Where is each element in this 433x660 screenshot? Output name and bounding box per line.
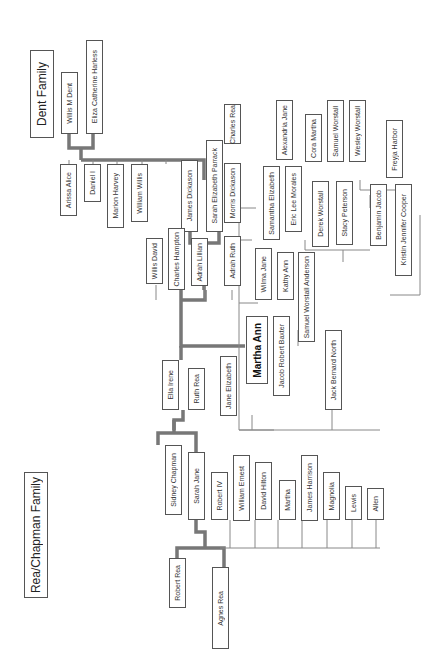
person-cora-martha[interactable]: Cora Martha (305, 114, 322, 162)
person-james-dickason[interactable]: James Dickason (181, 160, 198, 232)
person-ella-irene[interactable]: Ella Irene (162, 360, 179, 410)
person-ruth-rea[interactable]: Ruth Rea (188, 368, 205, 410)
person-samuel-worstall-anderson[interactable]: Samuel Worstall Anderson (298, 252, 315, 342)
person-magnolia[interactable]: Magnolia (323, 472, 340, 520)
person-sarah-jane[interactable]: Sarah Jane (188, 452, 205, 520)
person-samantha-elizabeth[interactable]: Samantha Elizabeth (263, 166, 280, 240)
person-freyja-harbor[interactable]: Freyja Harbor (386, 120, 403, 178)
person-derek-worstall[interactable]: Derek Worstall (312, 181, 329, 247)
person-william-willis[interactable]: William Willis (131, 164, 148, 222)
rea-chapman-family-title: Rea/Chapman Family (24, 472, 48, 598)
person-charles-hampton[interactable]: Charles Hampton (168, 228, 185, 290)
person-martha-ann[interactable]: Martha Ann (246, 316, 268, 384)
person-samuel-worstall[interactable]: Samuel Worstall (327, 100, 344, 162)
person-william-ernest[interactable]: William Ernest (233, 455, 250, 521)
person-wilma-jane[interactable]: Wilma Jane (255, 248, 272, 300)
person-lewis[interactable]: Lewis (345, 486, 362, 520)
family-tree-diagram: Dent Family Willis M Dent Eliza Catherin… (0, 0, 433, 660)
person-sidney-chapman[interactable]: Sidney Chapman (165, 445, 182, 515)
person-sarah-elizabeth-parrack[interactable]: Sarah Elizabeth Parrack (206, 140, 223, 232)
person-kathy-ann[interactable]: Kathy Ann (277, 252, 294, 300)
person-wesley-worstall[interactable]: Wesley Worstall (349, 100, 366, 162)
person-morris-dickason[interactable]: Morris Dickason (224, 163, 241, 223)
person-charles-rea[interactable]: Charles Rea (224, 104, 241, 144)
person-james-harrison[interactable]: James Harrison (301, 455, 318, 521)
person-eric-lee-morales[interactable]: Eric Lee Morales (285, 166, 302, 232)
person-daniel-i[interactable]: Daniel I (84, 164, 101, 202)
person-martha[interactable]: Martha (279, 480, 296, 520)
person-benjamin-jacob[interactable]: Benjamin Jacob (370, 184, 387, 246)
person-adrah-ruth[interactable]: Adrah Ruth (224, 236, 241, 286)
person-kristin-jennifer-cooper[interactable]: Kristin Jennifer Cooper (395, 184, 412, 276)
sarah-jane-siblings-line (220, 520, 380, 548)
person-willis-david[interactable]: Willis David (146, 238, 163, 284)
person-jack-bernard-north[interactable]: Jack Bernard North (325, 330, 342, 410)
person-adrah-lillian[interactable]: Adrah Lillian (191, 238, 208, 286)
person-robert-rea[interactable]: Robert Rea (169, 558, 186, 608)
person-marion-harvey[interactable]: Marion Harvey (107, 164, 124, 228)
person-jane-elizabeth[interactable]: Jane Elizabeth (220, 356, 237, 416)
sarah-jane-down (196, 520, 205, 545)
person-allen[interactable]: Allen (367, 488, 384, 520)
person-arissa-alice[interactable]: Arissa Alice (60, 164, 77, 216)
dent-family-title: Dent Family (30, 50, 54, 138)
person-david-hilton[interactable]: David Hilton (255, 462, 272, 520)
person-stacy-peterson[interactable]: Stacy Peterson (336, 181, 353, 245)
person-alexandria-jane[interactable]: Alexandria Jane (276, 100, 293, 160)
person-jacob-robert-baxter[interactable]: Jacob Robert Baxter (273, 316, 290, 396)
person-eliza-catherine-harless[interactable]: Eliza Catherine Harless (86, 40, 103, 134)
person-agnes-rea[interactable]: Agnes Rea (212, 567, 229, 649)
person-willis-m-dent[interactable]: Willis M Dent (61, 72, 78, 134)
dent-parents-line (69, 134, 93, 160)
person-robert-iv[interactable]: Robert IV (211, 472, 228, 520)
